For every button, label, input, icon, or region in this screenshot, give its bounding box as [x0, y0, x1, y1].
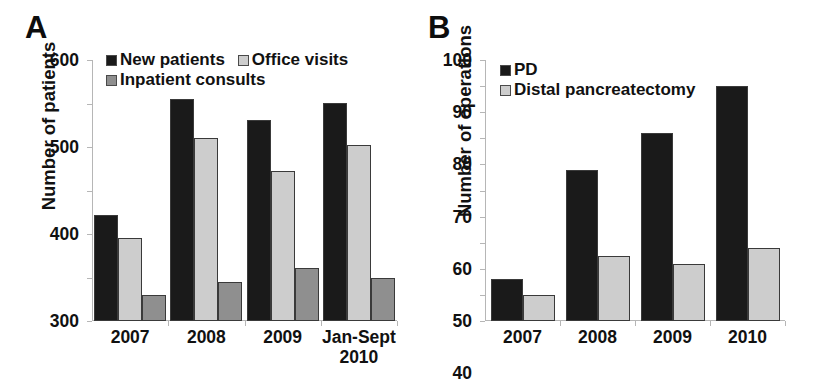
y-tick-b-90: 90 — [480, 86, 485, 87]
x-category-line: 2009 — [653, 328, 692, 348]
bar-a-inpatient-consults-2009 — [295, 268, 319, 321]
y-tick-b-70: 70 — [480, 138, 485, 139]
y-tick-a-100: 100 — [87, 278, 92, 279]
legend-item-office-visits: Office visits — [238, 50, 348, 70]
legend-item-inpatient-consults: Inpatient consults — [106, 70, 265, 90]
y-tick-label: 50 — [453, 311, 472, 332]
y-tick-label: 500 — [50, 137, 79, 158]
y-tick-b-50: 50 — [480, 191, 485, 192]
x-category-label: 2007 — [111, 328, 150, 348]
y-tick-a-600: 600 — [87, 60, 92, 61]
y-tick-b-100: 100 — [480, 60, 485, 61]
y-tick-label: 60 — [453, 258, 472, 279]
y-tick-a-300: 300 — [87, 191, 92, 192]
panel-label-b: B — [428, 12, 450, 43]
chart-panel-b: B Number of operations 01020304050607080… — [410, 0, 819, 382]
x-category-line: Jan-Sept — [322, 328, 396, 348]
legend-swatch-icon — [500, 85, 511, 96]
bar-a-office-visits-2008 — [194, 138, 218, 321]
legend-label: New patients — [120, 50, 225, 70]
chart-panel-a: A Number of patients 0100200300400500600… — [0, 0, 410, 382]
y-tick-a-500: 500 — [87, 104, 92, 105]
legend-label: Office visits — [252, 50, 348, 70]
bar-b-pd-2010 — [716, 86, 748, 321]
x-tick — [321, 321, 322, 326]
y-tick-label: 80 — [453, 154, 472, 175]
y-tick-label: 600 — [50, 50, 79, 71]
y-tick-b-0: 0 — [480, 321, 485, 322]
bar-b-pd-2007 — [491, 279, 523, 321]
y-tick-b-30: 30 — [480, 243, 485, 244]
legend-a: New patientsOffice visitsInpatient consu… — [106, 50, 348, 90]
bar-b-pd-2009 — [641, 133, 673, 321]
bar-a-office-visits-2009 — [271, 171, 295, 321]
bar-b-pd-2008 — [566, 170, 598, 321]
y-tick-label: 90 — [453, 102, 472, 123]
y-tick-b-80: 80 — [480, 112, 485, 113]
y-axis-line-a — [92, 60, 93, 321]
bar-a-office-visits-2007 — [118, 238, 142, 321]
bar-b-distal-pancreatectomy-2008 — [598, 256, 630, 321]
x-category-label: 2008 — [187, 328, 226, 348]
legend-row: Distal pancreatectomy — [500, 80, 695, 100]
bar-a-inpatient-consults-Jan-Sept-2010 — [371, 278, 395, 321]
legend-swatch-icon — [238, 55, 249, 66]
legend-label: PD — [514, 60, 538, 80]
bar-a-new-patients-Jan-Sept-2010 — [323, 103, 347, 321]
x-category-label: Jan-Sept2010 — [322, 328, 396, 367]
x-category-label: 2010 — [728, 328, 767, 348]
x-category-line: 2009 — [263, 328, 302, 348]
y-tick-b-20: 20 — [480, 269, 485, 270]
plot-area-a: 0100200300400500600200720082009Jan-Sept2… — [92, 60, 397, 321]
bar-b-distal-pancreatectomy-2009 — [673, 264, 705, 321]
legend-swatch-icon — [500, 65, 511, 76]
x-category-line: 2008 — [578, 328, 617, 348]
y-tick-label: 300 — [50, 311, 79, 332]
x-tick — [710, 321, 711, 326]
bar-b-distal-pancreatectomy-2010 — [748, 248, 780, 321]
y-tick-label: 400 — [50, 224, 79, 245]
bar-b-distal-pancreatectomy-2007 — [523, 295, 555, 321]
x-category-label: 2009 — [653, 328, 692, 348]
legend-b: PDDistal pancreatectomy — [500, 60, 695, 100]
y-tick-a-200: 200 — [87, 234, 92, 235]
x-tick — [245, 321, 246, 326]
bar-a-new-patients-2007 — [94, 215, 118, 321]
x-category-label: 2007 — [503, 328, 542, 348]
bar-a-new-patients-2008 — [170, 99, 194, 321]
x-tick — [397, 321, 398, 326]
x-tick — [635, 321, 636, 326]
y-tick-a-0: 0 — [87, 321, 92, 322]
x-category-line: 2010 — [322, 348, 396, 368]
legend-label: Distal pancreatectomy — [514, 80, 695, 100]
x-category-label: 2008 — [578, 328, 617, 348]
x-tick — [560, 321, 561, 326]
y-tick-label: 100 — [443, 50, 472, 71]
bar-a-inpatient-consults-2007 — [142, 295, 166, 321]
legend-row: Inpatient consults — [106, 70, 348, 90]
y-tick-b-40: 40 — [480, 217, 485, 218]
y-axis-line-b — [485, 60, 486, 321]
x-tick — [785, 321, 786, 326]
x-category-label: 2009 — [263, 328, 302, 348]
y-tick-label: 70 — [453, 206, 472, 227]
legend-label: Inpatient consults — [120, 70, 265, 90]
y-tick-b-10: 10 — [480, 295, 485, 296]
legend-item-pd: PD — [500, 60, 538, 80]
x-category-line: 2007 — [503, 328, 542, 348]
bar-a-office-visits-Jan-Sept-2010 — [347, 145, 371, 321]
y-tick-label: 40 — [453, 363, 472, 382]
legend-row: New patientsOffice visits — [106, 50, 348, 70]
y-tick-a-400: 400 — [87, 147, 92, 148]
legend-swatch-icon — [106, 55, 117, 66]
legend-item-distal-pancreatectomy: Distal pancreatectomy — [500, 80, 695, 100]
x-category-line: 2008 — [187, 328, 226, 348]
legend-row: PD — [500, 60, 695, 80]
bar-a-inpatient-consults-2008 — [218, 282, 242, 321]
legend-swatch-icon — [106, 75, 117, 86]
legend-item-new-patients: New patients — [106, 50, 225, 70]
x-tick — [168, 321, 169, 326]
x-category-line: 2010 — [728, 328, 767, 348]
figure-container: A Number of patients 0100200300400500600… — [0, 0, 819, 382]
y-tick-b-60: 60 — [480, 164, 485, 165]
